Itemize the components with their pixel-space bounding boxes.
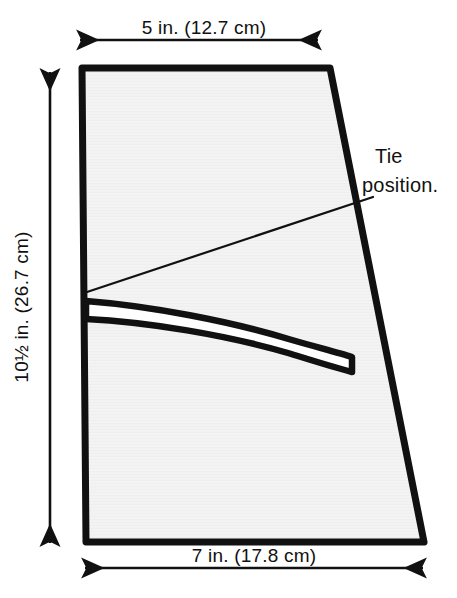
dimension-left-label: 10½ in. (26.7 cm) bbox=[11, 231, 32, 382]
dimension-top-label: 5 in. (12.7 cm) bbox=[142, 17, 266, 38]
pattern-diagram: 5 in. (12.7 cm) 10½ in. (26.7 cm) 7 in. … bbox=[0, 0, 457, 598]
dimension-bottom-label: 7 in. (17.8 cm) bbox=[192, 545, 316, 566]
tie-callout-line2: position. bbox=[362, 174, 438, 196]
diagram-root: 5 in. (12.7 cm) 10½ in. (26.7 cm) 7 in. … bbox=[0, 0, 457, 598]
dimension-left-label-group: 10½ in. (26.7 cm) bbox=[11, 199, 34, 415]
tie-callout-line1: Tie bbox=[375, 145, 403, 167]
